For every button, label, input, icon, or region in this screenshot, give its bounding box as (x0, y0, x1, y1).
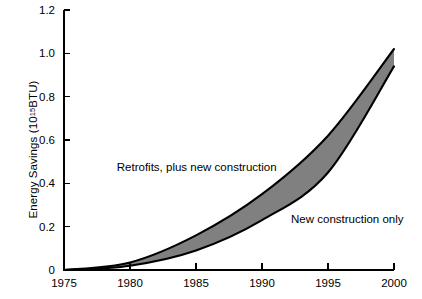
x-tick-label: 1975 (51, 277, 77, 289)
x-tick-label: 1995 (315, 277, 341, 289)
y-tick-label: 0.2 (39, 221, 55, 233)
x-tick-label: 2000 (381, 277, 407, 289)
y-tick-label: 0.4 (39, 177, 56, 189)
y-tick-label: 0.8 (39, 91, 55, 103)
y-tick-label: 1.2 (39, 4, 55, 16)
x-tick-label: 1980 (117, 277, 143, 289)
y-axis-ticks (64, 10, 70, 227)
chart-container: Energy Savings (1015 BTU) 00.20.40.60.81… (0, 0, 422, 299)
y-tick-label: 0 (49, 264, 55, 276)
y-tick-label: 0.6 (39, 134, 55, 146)
chart-plot-area: 00.20.40.60.81.01.2 19751980198519901995… (0, 0, 422, 299)
y-tick-label: 1.0 (39, 47, 55, 59)
series-annotation-retrofits-plus-new-construction: Retrofits, plus new construction (117, 161, 277, 173)
x-tick-label: 1990 (249, 277, 275, 289)
x-tick-label: 1985 (183, 277, 209, 289)
y-axis-tick-labels: 00.20.40.60.81.01.2 (39, 4, 56, 276)
series-annotation-new-construction-only: New construction only (291, 213, 404, 225)
x-axis-ticks (130, 263, 394, 270)
x-axis-tick-labels: 197519801985199019952000 (51, 277, 407, 289)
